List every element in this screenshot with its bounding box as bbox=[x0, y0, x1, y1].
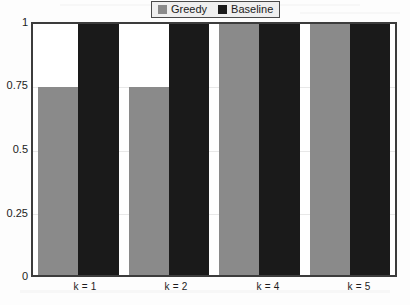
bar-baseline-k2 bbox=[169, 24, 209, 275]
bar-group-k5 bbox=[305, 24, 396, 275]
bar-greedy-k1 bbox=[38, 87, 78, 275]
x-tick-label-k2: k = 2 bbox=[130, 281, 222, 292]
x-tick-label-k5: k = 5 bbox=[313, 281, 405, 292]
bar-chart-figure: Greedy Baseline 1 0.75 0.5 0.25 0 bbox=[0, 0, 410, 305]
greedy-swatch-icon bbox=[158, 5, 167, 14]
bar-greedy-k5 bbox=[310, 24, 350, 275]
bar-baseline-k1 bbox=[78, 24, 118, 275]
bar-greedy-k4 bbox=[219, 24, 259, 275]
legend-entry-greedy: Greedy bbox=[158, 4, 207, 15]
bar-greedy-k2 bbox=[129, 87, 169, 275]
y-tick-label-0: 0 bbox=[0, 271, 28, 282]
legend-entry-baseline: Baseline bbox=[218, 4, 273, 15]
legend-label-greedy: Greedy bbox=[171, 4, 207, 15]
x-tick-label-k4: k = 4 bbox=[222, 281, 314, 292]
bar-group-k1 bbox=[33, 24, 124, 275]
bar-baseline-k4 bbox=[259, 24, 299, 275]
y-tick-label-0.25: 0.25 bbox=[0, 208, 28, 219]
legend-label-baseline: Baseline bbox=[231, 4, 273, 15]
bar-series-container bbox=[33, 24, 395, 275]
x-tick-label-k1: k = 1 bbox=[39, 281, 131, 292]
plot-area bbox=[31, 22, 397, 277]
y-tick-label-0.75: 0.75 bbox=[0, 80, 28, 91]
bar-baseline-k5 bbox=[350, 24, 390, 275]
scan-artifact bbox=[300, 12, 400, 14]
chart-legend: Greedy Baseline bbox=[151, 1, 280, 18]
y-tick-label-1: 1 bbox=[0, 17, 28, 28]
baseline-swatch-icon bbox=[218, 5, 227, 14]
bar-group-k2 bbox=[124, 24, 215, 275]
bar-group-k4 bbox=[214, 24, 305, 275]
y-tick-label-0.5: 0.5 bbox=[0, 144, 28, 155]
